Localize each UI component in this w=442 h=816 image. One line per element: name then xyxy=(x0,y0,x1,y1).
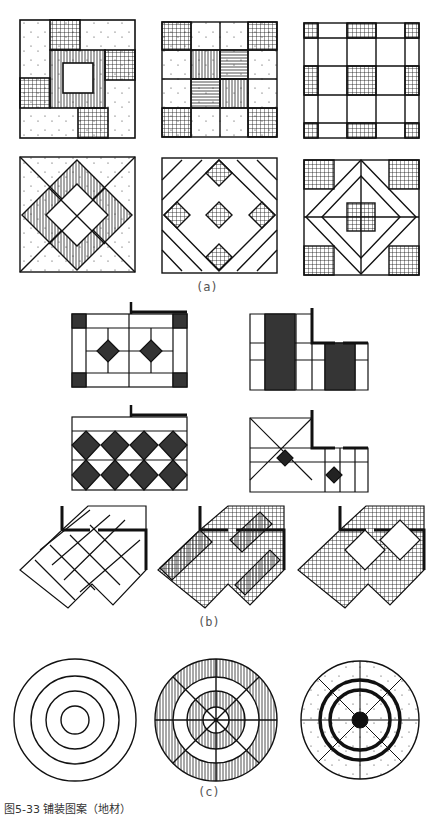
label-b: (b) xyxy=(198,615,220,629)
plan-b4 xyxy=(250,410,368,492)
pattern-a1 xyxy=(20,20,135,138)
pattern-a2 xyxy=(162,22,277,137)
plan-b5 xyxy=(20,506,146,608)
label-a: (a) xyxy=(196,280,218,294)
paving-diagram xyxy=(0,0,442,816)
plan-b3 xyxy=(72,405,187,490)
figure-caption: 图5-33 铺装图案（地材） xyxy=(4,800,131,816)
pattern-a3 xyxy=(304,23,419,138)
plan-b1 xyxy=(72,302,187,387)
pattern-a5 xyxy=(162,158,277,273)
circle-c3 xyxy=(301,661,419,779)
pattern-a6 xyxy=(304,160,419,275)
plan-b6 xyxy=(158,506,284,608)
plan-b7 xyxy=(298,506,424,608)
circle-c1 xyxy=(14,659,136,781)
circle-c2 xyxy=(155,659,277,781)
pattern-a4 xyxy=(20,157,135,272)
label-c: (c) xyxy=(198,785,220,799)
plan-b2 xyxy=(250,308,368,390)
